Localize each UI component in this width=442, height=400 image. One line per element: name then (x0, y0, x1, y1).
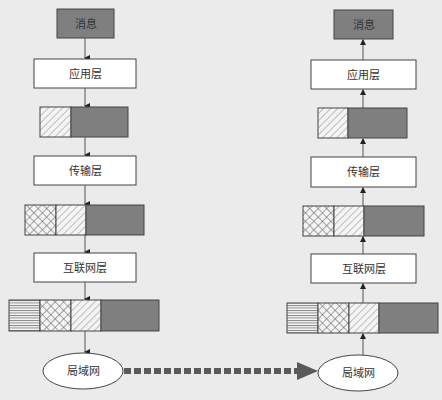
receiver-message-box: 消息 (334, 10, 393, 39)
lan-link-dashed-arrow (124, 362, 318, 380)
receiver-internet-layer: 互联网层 (311, 254, 416, 283)
transport-header-segment (56, 205, 86, 235)
receiver-packet-1 (318, 108, 407, 138)
payload-segment (86, 205, 144, 235)
payload-segment (71, 107, 128, 137)
payload-segment (101, 300, 159, 331)
sender-transport-layer: 传输层 (34, 156, 136, 185)
sender-message-label: 消息 (75, 17, 97, 31)
receiver-packet-2 (303, 206, 424, 236)
receiver-message-label: 消息 (353, 18, 375, 32)
payload-segment (348, 108, 407, 138)
sender-lan-label: 局域网 (67, 365, 100, 378)
sender-application-layer: 应用层 (34, 59, 136, 88)
internet-header-segment (318, 303, 349, 333)
internet-header-segment (303, 206, 334, 236)
sender-packet-1 (40, 107, 128, 137)
payload-segment (364, 206, 424, 236)
internet-header-segment (25, 205, 56, 235)
payload-segment (379, 303, 438, 333)
transport-header-segment (349, 303, 379, 333)
transport-header-segment (71, 300, 101, 331)
transport-header-segment (40, 107, 71, 137)
link-header-segment (287, 303, 318, 333)
protocol-stack-diagram: 消息 应用层 传输层 互联网层 (0, 0, 442, 400)
sender-internet-layer-label: 互联网层 (63, 262, 107, 275)
receiver-lan-node: 局域网 (318, 355, 398, 391)
link-header-segment (9, 300, 40, 331)
receiver-stack: 消息 应用层 传输层 互联网层 (287, 10, 438, 391)
sender-stack: 消息 应用层 传输层 互联网层 (9, 9, 159, 389)
sender-lan-node: 局域网 (43, 353, 123, 389)
sender-packet-3 (9, 300, 159, 331)
receiver-transport-layer: 传输层 (311, 157, 416, 187)
receiver-lan-label: 局域网 (342, 367, 375, 380)
transport-header-segment (318, 108, 348, 138)
arrow-right-icon (297, 362, 318, 380)
sender-internet-layer: 互联网层 (34, 253, 136, 282)
receiver-application-layer-label: 应用层 (347, 68, 380, 82)
sender-message-box: 消息 (57, 9, 114, 38)
sender-application-layer-label: 应用层 (69, 67, 102, 81)
sender-transport-layer-label: 传输层 (69, 164, 102, 178)
receiver-transport-layer-label: 传输层 (347, 165, 380, 179)
receiver-internet-layer-label: 互联网层 (342, 263, 386, 276)
receiver-packet-3 (287, 303, 438, 333)
internet-header-segment (40, 300, 71, 331)
receiver-application-layer: 应用层 (311, 60, 416, 89)
transport-header-segment (334, 206, 364, 236)
sender-packet-2 (25, 205, 144, 235)
